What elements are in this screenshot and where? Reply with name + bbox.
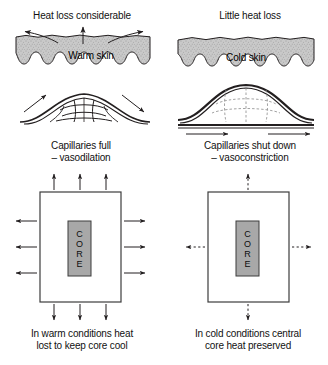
core-letter: R — [76, 249, 83, 259]
right-footer-line2: core heat preserved — [172, 340, 324, 352]
core-letter: O — [244, 239, 251, 249]
left-core-label: C O R E — [68, 221, 91, 276]
left-capillary-caption-line2: – vasodilation — [14, 152, 148, 164]
left-capillary-caption-line1: Capillaries full — [14, 140, 148, 152]
right-footer-line1: In cold conditions central — [172, 328, 324, 340]
right-skin-label: Cold skin — [198, 52, 294, 64]
core-letter: R — [244, 249, 251, 259]
left-footer-line1: In warm conditions heat — [6, 328, 158, 340]
right-panel-heading: Little heat loss — [176, 10, 324, 22]
thermoregulation-diagram: Heat loss considerable Little heat loss … — [0, 0, 328, 365]
left-skin-label: Warm skin — [43, 50, 139, 62]
core-letter: E — [244, 259, 250, 269]
right-capillary-constricted — [178, 85, 314, 128]
core-letter: O — [76, 239, 83, 249]
core-letter: C — [76, 229, 83, 239]
left-footer-line2: lost to keep core cool — [6, 340, 158, 352]
core-letter: C — [244, 229, 251, 239]
right-core-label: C O R E — [236, 221, 259, 276]
right-capillary-caption-line2: – vasoconstriction — [178, 152, 322, 164]
right-capillary-caption-line1: Capillaries shut down — [178, 140, 322, 152]
left-panel-heading: Heat loss considerable — [8, 10, 156, 22]
left-capillary-dilated — [20, 94, 150, 124]
core-letter: E — [76, 259, 82, 269]
